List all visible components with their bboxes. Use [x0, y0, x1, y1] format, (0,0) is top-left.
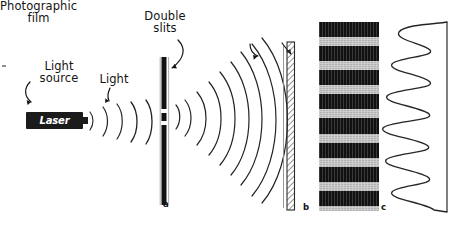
interference-fringe-photograph [319, 22, 379, 211]
fringe-band [319, 191, 379, 206]
diffracted-wavefronts [176, 38, 288, 203]
fringe-band [319, 134, 379, 143]
fringe-band [319, 158, 379, 167]
double-slit-barrier [160, 57, 168, 205]
diagram-linework [0, 0, 459, 229]
fringe-band [319, 109, 379, 118]
fringe-band [319, 46, 379, 61]
fringe-band [319, 118, 379, 134]
fringe-band [319, 85, 379, 94]
fringe-band [319, 143, 379, 158]
incident-wavefronts [90, 100, 152, 144]
fringe-band [319, 22, 379, 37]
fringe-band [319, 70, 379, 85]
arrow-light-curve [108, 88, 110, 101]
intensity-curve-panel [383, 22, 447, 212]
arrow-double-slits-curve [172, 40, 183, 68]
fringe-band [319, 167, 379, 182]
photographic-film-plate [284, 42, 295, 210]
intensity-curve-line [383, 22, 447, 212]
fringe-band [319, 61, 379, 70]
arrow-light-source-curve [26, 82, 31, 102]
fringe-band [319, 206, 379, 211]
fringe-band [319, 37, 379, 46]
double-slit-experiment-figure: Light source Light Double slits Photogra… [0, 0, 459, 229]
fringe-band [319, 94, 379, 109]
fringe-band [319, 182, 379, 191]
